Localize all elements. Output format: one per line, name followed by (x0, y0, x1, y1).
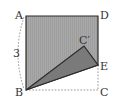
label-c: C (100, 86, 108, 99)
label-e: E (100, 60, 108, 73)
label-a: A (14, 9, 24, 22)
label-b: B (15, 86, 23, 99)
label-side-length: 3 (13, 47, 20, 60)
label-d: D (100, 9, 109, 22)
label-c-prime: C′ (79, 34, 90, 47)
fold-diagram: A D C′ E 3 B C (0, 0, 114, 104)
